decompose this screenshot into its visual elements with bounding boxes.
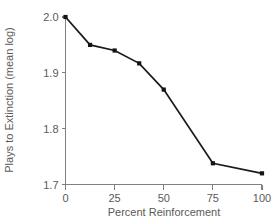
x-tick-label: 50 <box>158 192 170 204</box>
x-tick-label: 100 <box>253 192 271 204</box>
data-point-marker <box>113 48 117 52</box>
y-tick-label: 1.8 <box>43 123 58 135</box>
y-axis-tick-labels: 1.71.81.92.0 <box>43 11 58 191</box>
x-axis-title: Percent Reinforcement <box>108 206 221 218</box>
data-point-marker <box>63 15 67 19</box>
axis-spines <box>66 17 263 185</box>
x-axis-ticks <box>66 185 263 190</box>
x-tick-label: 0 <box>62 192 68 204</box>
data-point-marker <box>162 87 166 91</box>
data-point-marker <box>260 171 264 175</box>
y-axis-ticks <box>62 17 66 185</box>
y-tick-label: 2.0 <box>43 11 58 23</box>
x-tick-label: 75 <box>207 192 219 204</box>
data-point-marker <box>137 61 141 65</box>
x-axis-tick-labels: 0255075100 <box>62 192 271 204</box>
data-point-marker <box>88 43 92 47</box>
data-series-line <box>66 17 263 173</box>
x-tick-label: 25 <box>109 192 121 204</box>
line-chart-plot: 1.71.81.92.0 0255075100 Percent Reinforc… <box>0 0 274 224</box>
y-tick-label: 1.9 <box>43 67 58 79</box>
y-tick-label: 1.7 <box>43 179 58 191</box>
data-series-markers <box>63 15 264 176</box>
y-axis-title: Plays to Extinction (mean log) <box>3 27 15 173</box>
data-point-marker <box>211 161 215 165</box>
chart-figure: 1.71.81.92.0 0255075100 Percent Reinforc… <box>0 0 274 224</box>
